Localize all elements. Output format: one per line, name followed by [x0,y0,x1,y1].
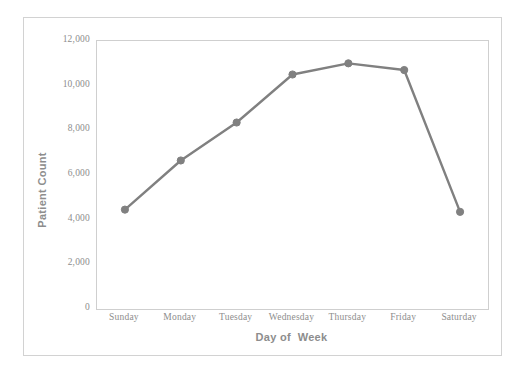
series-markers [121,60,463,216]
y-axis-title: Patient Count [36,56,52,324]
x-axis-tick-label: Wednesday [269,312,314,322]
y-axis-tick-label: 2,000 [68,257,90,267]
y-axis-tick-label: 4,000 [68,213,90,223]
x-axis-tick-label: Friday [390,312,416,322]
chart-figure: 02,0004,0006,0008,00010,00012,000 Patien… [0,0,523,383]
data-point-marker [289,71,296,78]
series-line-patient-count [125,63,460,212]
x-axis-title: Day of Week [96,331,487,343]
y-axis-tick-label: 0 [85,302,90,312]
x-axis-tick-label: Saturday [441,312,476,322]
y-axis-tick-label: 6,000 [68,168,90,178]
x-axis-tick-label: Thursday [329,312,366,322]
y-axis-tick-label: 10,000 [63,79,90,89]
line-series-svg [97,41,488,309]
x-axis-tick-label: Monday [163,312,196,322]
x-axis-tick-label: Sunday [109,312,139,322]
plot-area [96,40,489,310]
data-point-marker [401,66,408,73]
data-point-marker [177,157,184,164]
data-point-marker [456,208,463,215]
data-point-marker [233,119,240,126]
y-axis-tick-label: 12,000 [63,34,90,44]
data-point-marker [345,60,352,67]
x-axis-tick-labels: SundayMondayTuesdayWednesdayThursdayFrid… [96,312,487,328]
data-point-marker [121,206,128,213]
y-axis-tick-label: 8,000 [68,123,90,133]
x-axis-tick-label: Tuesday [219,312,252,322]
